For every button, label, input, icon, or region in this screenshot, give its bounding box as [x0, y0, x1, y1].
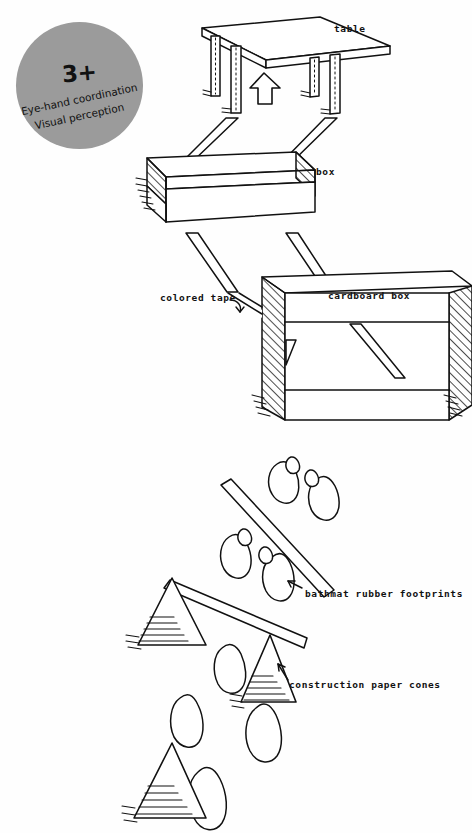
footprint-pair-4: [171, 695, 282, 762]
age-skills-badge: 3+ Eye-hand coordination Visual percepti…: [16, 22, 143, 149]
footprint-pair-1: [269, 457, 340, 520]
label-cones: construction paper cones: [289, 680, 441, 690]
open-box-drawing: [136, 152, 315, 222]
footprint-pair-3: [214, 645, 245, 694]
label-table: table: [334, 24, 366, 34]
diagram-canvas: 3+ Eye-hand coordination Visual percepti…: [0, 0, 472, 833]
label-cardboard-box: cardboard box: [328, 291, 410, 301]
label-colored-tape: colored tape: [160, 293, 236, 303]
label-footprints: bathmat rubber footprints: [305, 589, 463, 599]
badge-age-label: 3+: [61, 59, 97, 88]
label-box: box: [316, 167, 335, 177]
cone-1: [126, 578, 206, 649]
tape-strip-mid-left: [186, 233, 238, 292]
